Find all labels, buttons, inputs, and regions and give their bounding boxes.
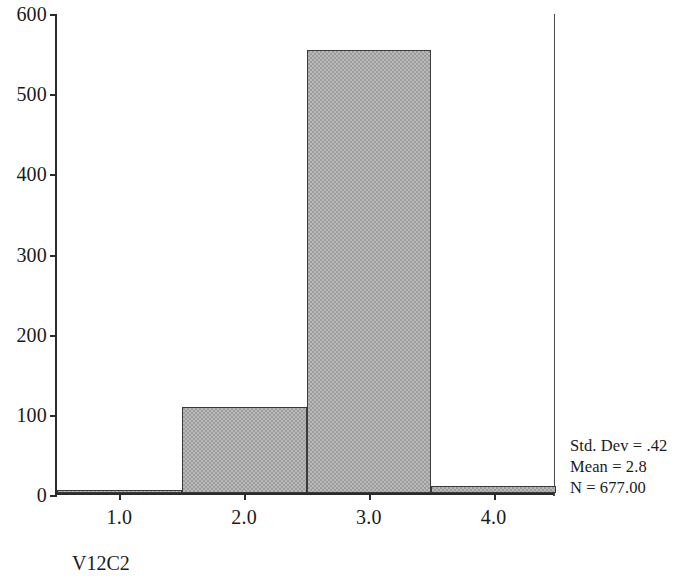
n-text: N = 677.00 <box>570 477 695 498</box>
y-axis-tick-label: 300 <box>16 245 47 265</box>
y-axis-tick <box>50 495 57 497</box>
x-axis-tick <box>494 493 496 500</box>
x-axis-tick-label: 1.0 <box>107 507 133 527</box>
x-axis-tick <box>369 493 371 500</box>
y-axis-tick-label: 500 <box>16 84 47 104</box>
statistics-annotation: Std. Dev = .42 Mean = 2.8 N = 677.00 <box>570 435 695 498</box>
y-axis-tick-label: 200 <box>16 325 47 345</box>
mean-text: Mean = 2.8 <box>570 456 695 477</box>
x-axis-tick <box>244 493 246 500</box>
histogram-figure: 0100200300400500600 1.02.03.04.0 V12C2 S… <box>0 0 695 585</box>
y-axis-tick-label: 0 <box>37 485 47 505</box>
y-axis-tick-label: 100 <box>16 405 47 425</box>
y-axis-tick <box>50 415 57 417</box>
plot-area: 0100200300400500600 1.02.03.04.0 <box>55 14 554 495</box>
y-axis-tick <box>50 255 57 257</box>
y-axis-tick-label: 400 <box>16 164 47 184</box>
x-axis-tick-label: 4.0 <box>481 507 507 527</box>
y-axis-tick <box>50 174 57 176</box>
y-axis-tick <box>50 94 57 96</box>
x-axis-tick-label: 2.0 <box>231 507 257 527</box>
std-dev-text: Std. Dev = .42 <box>570 435 695 456</box>
histogram-bar <box>182 407 307 493</box>
histogram-bar <box>307 50 432 493</box>
histogram-bar <box>431 486 556 493</box>
x-axis-tick <box>119 493 121 500</box>
x-axis-tick-label: 3.0 <box>356 507 382 527</box>
y-axis-tick <box>50 14 57 16</box>
x-axis-title: V12C2 <box>72 553 130 573</box>
y-axis-tick-label: 600 <box>16 4 47 24</box>
y-axis-tick <box>50 335 57 337</box>
